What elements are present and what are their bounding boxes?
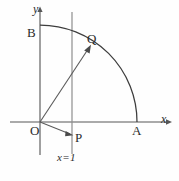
x-axis-arrowhead-icon [166, 119, 172, 125]
x-axis-label: x [161, 113, 166, 125]
vector-op [40, 122, 73, 136]
point-label-q: Q [87, 32, 96, 45]
vector-oq-shaft [40, 49, 89, 123]
geometry-figure: y x B Q O P A x=1 [0, 0, 179, 181]
point-label-p: P [75, 131, 82, 144]
vector-oq [40, 45, 91, 122]
point-label-a: A [132, 124, 141, 137]
vertical-line-label: x=1 [57, 152, 76, 163]
point-label-o: O [30, 124, 39, 137]
y-axis-label: y [33, 3, 38, 15]
vector-oq-arrowhead-icon [84, 45, 91, 54]
point-label-b: B [27, 26, 36, 39]
